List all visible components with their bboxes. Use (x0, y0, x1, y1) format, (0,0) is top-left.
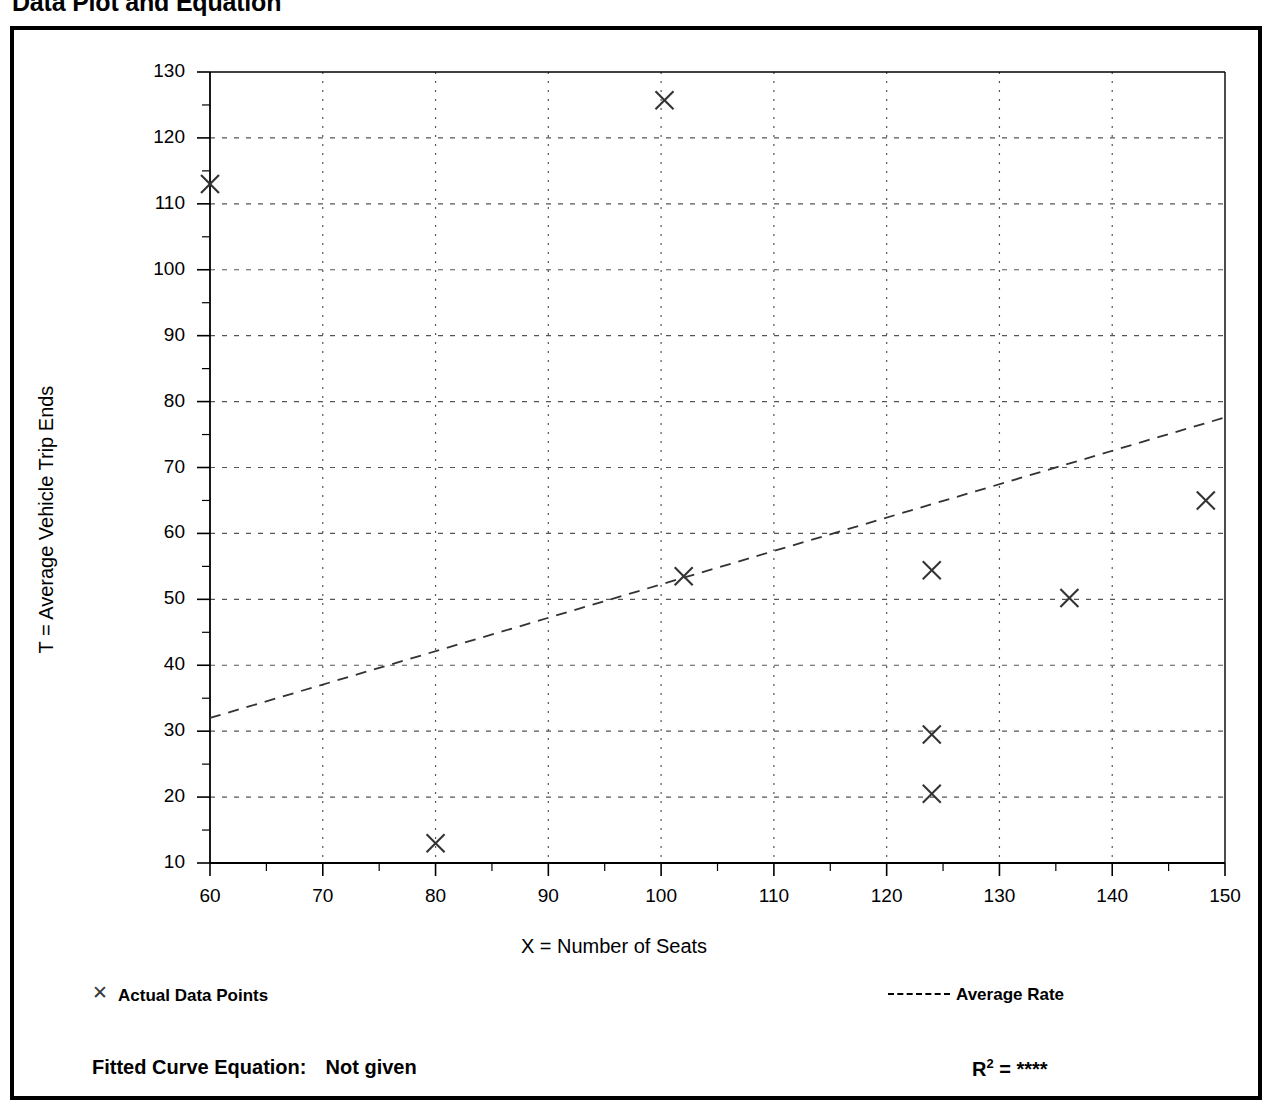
x-tick-label: 110 (734, 885, 814, 907)
trend-line (210, 417, 1225, 718)
data-point-marker (655, 91, 673, 109)
y-tick-label: 50 (115, 587, 185, 609)
r-squared-exponent: 2 (986, 1056, 993, 1071)
page-title: Data Plot and Equation (12, 0, 281, 17)
data-point-markers (201, 91, 1215, 852)
y-tick-label: 100 (115, 258, 185, 280)
data-point-marker (923, 785, 941, 803)
figure-frame: 60708090100110120130140150 1301201101009… (10, 26, 1262, 1100)
legend-item-average-rate: Average Rate (956, 985, 1064, 1005)
legend-label-average-rate: Average Rate (956, 985, 1064, 1004)
y-tick-label: 40 (115, 653, 185, 675)
x-tick-label: 130 (959, 885, 1039, 907)
chart-area: 60708090100110120130140150 1301201101009… (14, 30, 1258, 1096)
x-tick-label: 90 (508, 885, 588, 907)
minor-tick-marks (197, 72, 1225, 876)
y-axis-title: T = Average Vehicle Trip Ends (35, 320, 58, 720)
y-tick-label: 90 (115, 324, 185, 346)
dashed-line-icon (888, 993, 950, 995)
r-squared-value: R2 = **** (972, 1056, 1048, 1081)
data-point-marker (923, 725, 941, 743)
x-tick-label: 70 (283, 885, 363, 907)
legend-label-data-points: Actual Data Points (118, 986, 268, 1005)
equation-value: Not given (326, 1056, 417, 1078)
y-tick-label: 30 (115, 719, 185, 741)
data-point-marker (1060, 589, 1078, 607)
x-marker-icon: ✕ (92, 984, 110, 1002)
x-axis-title: X = Number of Seats (314, 935, 914, 958)
y-tick-label: 80 (115, 390, 185, 412)
legend-item-data-points: ✕ Actual Data Points (92, 985, 268, 1006)
y-tick-label: 130 (115, 60, 185, 82)
x-tick-label: 140 (1072, 885, 1152, 907)
r-squared-label: R (972, 1058, 986, 1080)
r-squared-stars: **** (1017, 1058, 1048, 1080)
x-tick-label: 80 (396, 885, 476, 907)
y-tick-label: 120 (115, 126, 185, 148)
data-point-marker (427, 834, 445, 852)
x-tick-label: 60 (170, 885, 250, 907)
y-tick-label: 60 (115, 521, 185, 543)
r-squared-equals: = (999, 1058, 1011, 1080)
y-tick-label: 20 (115, 785, 185, 807)
y-tick-label: 70 (115, 456, 185, 478)
x-tick-label: 120 (847, 885, 927, 907)
equation-label: Fitted Curve Equation: (92, 1056, 306, 1078)
x-tick-label: 100 (621, 885, 701, 907)
y-tick-label: 110 (115, 192, 185, 214)
data-point-marker (1197, 491, 1215, 509)
x-tick-label: 150 (1185, 885, 1265, 907)
fitted-curve-equation: Fitted Curve Equation: Not given (92, 1056, 417, 1079)
data-point-marker (923, 561, 941, 579)
y-tick-label: 10 (115, 851, 185, 873)
grid-lines (210, 72, 1225, 863)
